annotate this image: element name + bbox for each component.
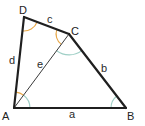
quadrilateral-edges — [14, 17, 126, 108]
side-label-d: d — [9, 54, 15, 66]
angle-arc-a-acd — [16, 92, 24, 95]
vertex-label-c: C — [71, 25, 79, 37]
vertex-label-b: B — [127, 110, 134, 122]
side-b — [69, 34, 126, 108]
side-label-c: c — [47, 13, 53, 25]
angle-arc-c-abc — [57, 51, 82, 55]
side-label-b: b — [101, 62, 107, 74]
angle-arc-b — [111, 96, 117, 108]
side-label-e: e — [37, 58, 43, 70]
vertex-labels: D C A B — [2, 4, 134, 122]
side-label-a: a — [69, 108, 76, 120]
quadrilateral-diagram: D C A B c d e b a — [0, 0, 145, 126]
angle-arc-a-abc — [24, 95, 30, 108]
diagonal-e — [14, 34, 69, 108]
vertex-label-a: A — [2, 110, 10, 122]
vertex-label-d: D — [19, 4, 27, 16]
angle-arc-d — [22, 22, 37, 31]
